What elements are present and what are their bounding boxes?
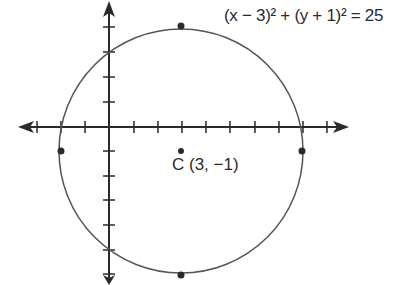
point-center xyxy=(178,148,184,154)
point-left xyxy=(58,148,65,155)
y-axis xyxy=(103,1,115,285)
point-right xyxy=(299,148,306,155)
point-bottom xyxy=(178,272,185,279)
circle-equation: (x − 3)² + (y + 1)² = 25 xyxy=(224,6,383,26)
point-top xyxy=(178,23,185,30)
center-label: C (3, −1) xyxy=(172,155,239,175)
circle-diagram xyxy=(0,0,397,285)
